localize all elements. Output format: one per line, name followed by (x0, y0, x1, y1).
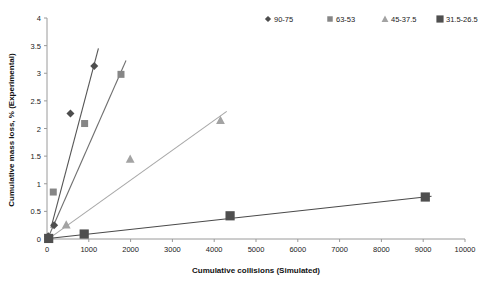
y-tick-label: 2 (37, 125, 41, 134)
x-tick-label: 4000 (206, 245, 223, 254)
data-point-63-53 (81, 120, 88, 127)
x-axis-title: Cumulative collisions (Simulated) (192, 266, 320, 275)
legend-label-45-37.5: 45-37.5 (391, 15, 416, 24)
data-point-31.5-26.5 (421, 192, 430, 201)
x-tick-label: 6000 (289, 245, 306, 254)
legend-marker-63-53 (327, 16, 332, 21)
x-tick-label: 1000 (80, 245, 97, 254)
data-point-31.5-26.5 (80, 229, 89, 238)
x-tick-label: 2000 (122, 245, 139, 254)
y-tick-label: 4 (37, 14, 41, 23)
x-tick-label: 9000 (415, 245, 432, 254)
x-tick-label: 7000 (331, 245, 348, 254)
x-tick-label: 0 (45, 245, 49, 254)
scatter-chart: 0100020003000400050006000700080009000100… (0, 0, 482, 285)
y-tick-label: 3 (37, 69, 41, 78)
legend-label-90-75: 90-75 (274, 15, 293, 24)
y-tick-label: 0 (37, 235, 41, 244)
x-tick-label: 5000 (248, 245, 265, 254)
y-tick-label: 0.5 (31, 207, 41, 216)
legend-marker-31.5-26.5 (436, 15, 443, 22)
x-tick-label: 3000 (164, 245, 181, 254)
x-tick-label: 10000 (455, 245, 476, 254)
data-point-31.5-26.5 (225, 211, 234, 220)
y-axis-title: Cumulative mass loss, % (Experimental) (7, 53, 16, 207)
chart-background (0, 0, 482, 285)
legend-label-31.5-26.5: 31.5-26.5 (446, 15, 478, 24)
data-point-31.5-26.5 (44, 234, 53, 243)
y-tick-label: 1 (37, 180, 41, 189)
data-point-63-53 (117, 71, 124, 78)
data-point-63-53 (50, 189, 57, 196)
y-tick-label: 2.5 (31, 97, 41, 106)
y-tick-label: 3.5 (31, 42, 41, 51)
y-tick-label: 1.5 (31, 152, 41, 161)
x-tick-label: 8000 (373, 245, 390, 254)
chart-container: 0100020003000400050006000700080009000100… (0, 0, 482, 285)
legend-label-63-53: 63-53 (336, 15, 355, 24)
